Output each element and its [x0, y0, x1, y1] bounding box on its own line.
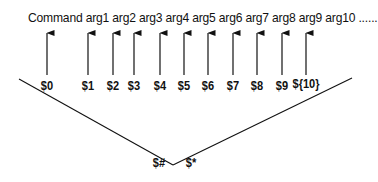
all-args-label: $*	[186, 155, 196, 170]
param-label: $3	[128, 78, 140, 93]
param-label: $5	[178, 78, 190, 93]
param-label: $1	[82, 78, 94, 93]
param-label: $4	[154, 78, 166, 93]
param-label: $9	[276, 78, 288, 93]
param-label: $7	[227, 78, 239, 93]
param-label: $2	[107, 78, 119, 93]
param-label: $0	[41, 78, 53, 93]
param-label: $6	[202, 78, 214, 93]
param-label: ${10}	[292, 76, 319, 91]
arg-count-label: $#	[153, 155, 165, 170]
param-label: $8	[251, 78, 263, 93]
